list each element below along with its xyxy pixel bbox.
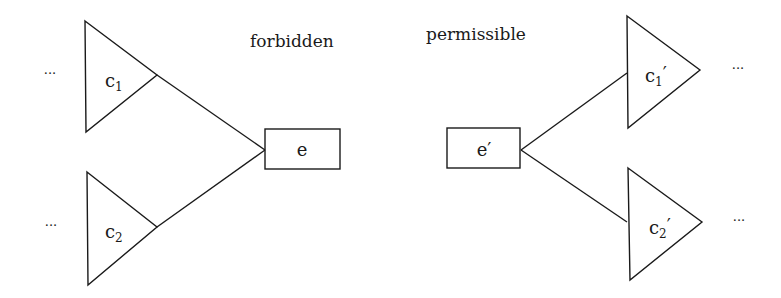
- edge-c1-e: [157, 75, 265, 150]
- node-e-label: e: [297, 139, 308, 160]
- edge-eprime-c1prime: [521, 73, 627, 150]
- label-forbidden: forbidden: [250, 31, 334, 51]
- triangle-c2: [87, 172, 157, 285]
- triangle-c2prime: [628, 168, 702, 280]
- edge-c2-e: [157, 150, 265, 227]
- ellipsis-c2prime: ···: [733, 213, 745, 228]
- c2-label: c2: [105, 221, 123, 245]
- c1prime-label: c1′: [645, 63, 667, 89]
- triangle-c1: [85, 21, 157, 132]
- edge-eprime-c2prime: [521, 150, 627, 222]
- node-eprime-label: e′: [477, 139, 492, 160]
- c2prime-label: c2′: [649, 215, 671, 241]
- ellipsis-c1prime: ···: [732, 61, 744, 76]
- ellipsis-c2: ···: [45, 218, 57, 233]
- ellipsis-c1: ···: [44, 66, 56, 81]
- diagram: forbidden permissible e e′ c1 c2 c1′ c2′…: [0, 0, 781, 298]
- label-permissible: permissible: [426, 24, 526, 44]
- c1-label: c1: [105, 70, 123, 94]
